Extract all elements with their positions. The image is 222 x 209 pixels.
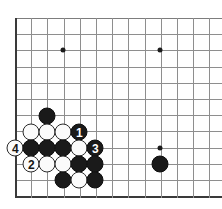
stone-move-number: 1 bbox=[76, 126, 82, 138]
star-point-lower-right bbox=[158, 146, 163, 151]
stone-white-b[interactable] bbox=[39, 124, 56, 141]
stone-move-number: 2 bbox=[28, 158, 34, 170]
go-diagram-screenshot: 1432 bbox=[0, 0, 222, 209]
grid-line-vertical bbox=[112, 18, 113, 198]
star-point-upper bbox=[61, 48, 66, 53]
stone-white-d[interactable] bbox=[71, 140, 88, 157]
stone-white-e[interactable] bbox=[39, 156, 56, 173]
stone-white-f[interactable] bbox=[55, 156, 72, 173]
stone-black-i[interactable] bbox=[87, 172, 104, 189]
stone-white-move-4[interactable]: 4 bbox=[7, 140, 24, 157]
stone-black-f[interactable] bbox=[87, 156, 104, 173]
grid-line-vertical bbox=[15, 18, 17, 198]
stone-black-c[interactable] bbox=[39, 140, 56, 157]
stone-white-move-2[interactable]: 2 bbox=[23, 156, 40, 173]
stone-white-c[interactable] bbox=[55, 124, 72, 141]
grid-line-vertical bbox=[209, 18, 210, 198]
stone-black-b[interactable] bbox=[23, 140, 40, 157]
stone-black-move-3[interactable]: 3 bbox=[87, 140, 104, 157]
stone-white-a[interactable] bbox=[23, 124, 40, 141]
stone-move-number: 3 bbox=[92, 142, 98, 154]
stone-black-g[interactable] bbox=[152, 156, 169, 173]
grid-line-vertical bbox=[193, 18, 194, 198]
grid-line-vertical bbox=[177, 18, 178, 198]
stone-white-g[interactable] bbox=[71, 172, 88, 189]
stone-black-a[interactable] bbox=[39, 108, 56, 125]
stone-move-number: 4 bbox=[12, 142, 18, 154]
stone-black-move-1[interactable]: 1 bbox=[71, 124, 88, 141]
stone-black-h[interactable] bbox=[55, 172, 72, 189]
stone-black-d[interactable] bbox=[55, 140, 72, 157]
grid-line-vertical bbox=[128, 18, 129, 198]
star-point-upper-right bbox=[158, 48, 163, 53]
go-board[interactable]: 1432 bbox=[0, 0, 222, 209]
grid-line-vertical bbox=[145, 18, 146, 198]
stone-black-e[interactable] bbox=[71, 156, 88, 173]
